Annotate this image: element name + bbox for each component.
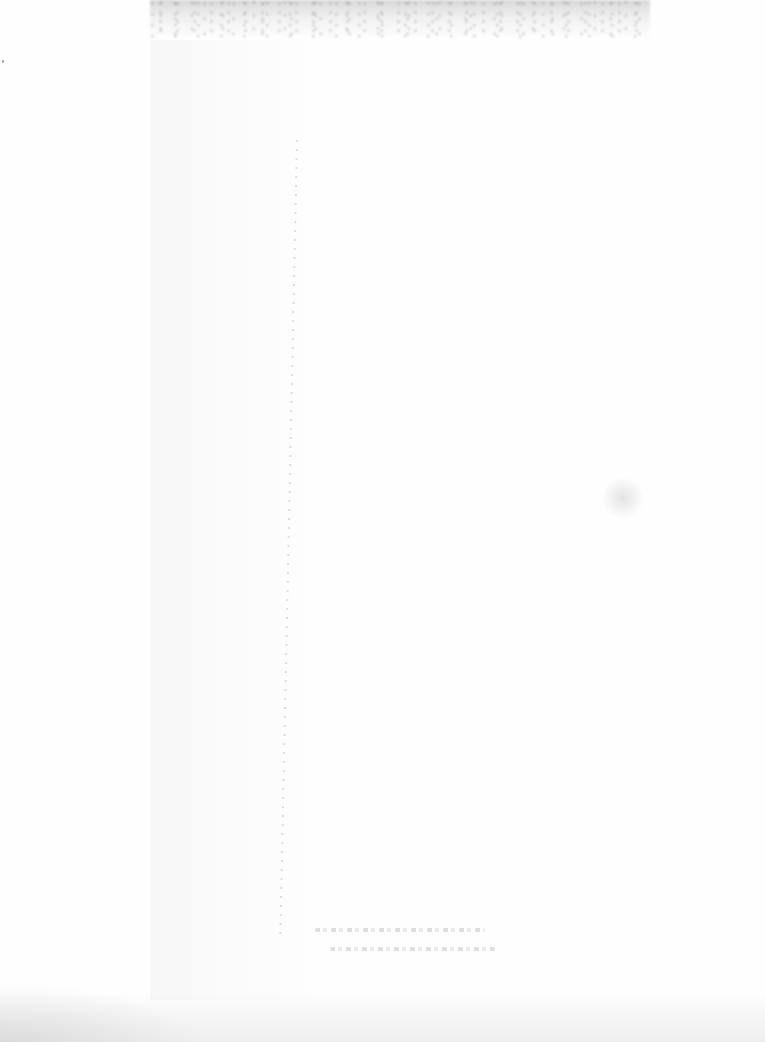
scan-shadow-corner: [0, 982, 200, 1042]
scan-smudge: [600, 478, 646, 518]
bleed-through-text-line: [330, 947, 495, 951]
scan-speck: [2, 60, 4, 63]
scan-noise-top-band: [150, 0, 650, 38]
bleed-through-text-line: [315, 928, 485, 932]
blank-document-page: [0, 0, 765, 1042]
